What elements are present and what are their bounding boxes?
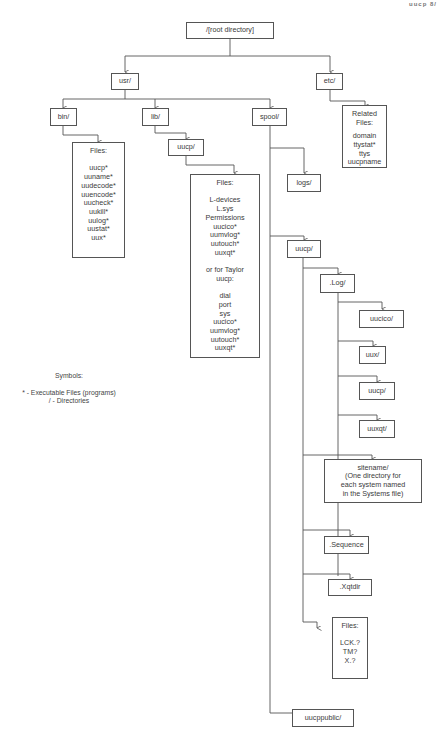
node-label: uucp/ <box>368 387 386 396</box>
node-label: uux/ <box>366 351 380 360</box>
node-label: bin/ <box>58 113 70 122</box>
file-line: uux* <box>91 234 105 243</box>
node-log-uux: uux/ <box>359 346 386 364</box>
node-lib-uucp: uucp/ <box>168 139 204 156</box>
node-lib: lib/ <box>142 108 169 126</box>
node-log: .Log/ <box>320 274 355 293</box>
node-log-uucico: uucico/ <box>359 310 404 328</box>
file-line: uuxqt* <box>215 249 235 258</box>
node-bin-files: Files: uucp* uuname* uudecode* uuencode*… <box>72 142 125 258</box>
node-label: .Log/ <box>330 279 346 288</box>
legend-item-directories: / - Directories <box>14 397 124 406</box>
file-line: uucp: <box>216 275 234 284</box>
node-log-uucp: uucp/ <box>359 382 395 400</box>
node-label: uucppublic/ <box>305 714 341 723</box>
node-label: etc/ <box>324 77 336 86</box>
node-sitename: sitename/ (One directory for each system… <box>324 459 422 503</box>
file-line: Files: <box>90 147 107 156</box>
node-label: uucp/ <box>177 143 195 152</box>
file-line: uucpname <box>348 158 382 167</box>
node-label: usr/ <box>119 77 131 86</box>
node-root-directory: /[root directory] <box>186 22 274 39</box>
node-label: uucico/ <box>370 315 393 324</box>
file-line: Files: <box>356 119 373 128</box>
file-line: in the Systems file) <box>343 490 404 499</box>
file-line: Files: <box>216 179 233 188</box>
node-spool: spool/ <box>252 108 287 126</box>
node-label: lib/ <box>151 113 160 122</box>
legend: Symbols: * - Executable Files (programs)… <box>14 372 124 406</box>
node-label: logs/ <box>296 179 311 188</box>
node-label: uucp/ <box>295 245 313 254</box>
node-etc: etc/ <box>316 73 343 90</box>
page-corner-header: uucp 8/ <box>409 1 437 7</box>
node-label: uuxqt/ <box>367 425 387 434</box>
node-xqtdir: .Xqtdir <box>328 579 372 596</box>
node-label: .Sequence <box>329 541 363 550</box>
file-line: X.? <box>345 657 356 666</box>
node-log-uuxqt: uuxqt/ <box>359 420 395 438</box>
file-line: Files: <box>341 622 358 631</box>
node-label: spool/ <box>260 113 279 122</box>
node-uucppublic: uucppublic/ <box>292 709 354 727</box>
node-lib-uucp-files: Files: L-devices L.sys Permissions uucic… <box>190 174 260 358</box>
file-line: uuxqt* <box>215 344 235 353</box>
node-spool-files: Files: LCK.? TM? X.? <box>332 617 368 679</box>
node-usr: usr/ <box>111 73 139 90</box>
node-label: .Xqtdir <box>340 583 361 592</box>
node-bin: bin/ <box>50 108 77 126</box>
legend-title: Symbols: <box>14 372 124 381</box>
node-sequence: .Sequence <box>324 536 369 554</box>
node-spool-uucp: uucp/ <box>287 240 321 258</box>
node-etc-related-files: Related Files: domain ttystat* ttys uucp… <box>342 105 387 168</box>
legend-item-executable: * - Executable Files (programs) <box>14 389 124 398</box>
node-logs: logs/ <box>287 174 321 192</box>
node-label: /[root directory] <box>206 26 254 35</box>
